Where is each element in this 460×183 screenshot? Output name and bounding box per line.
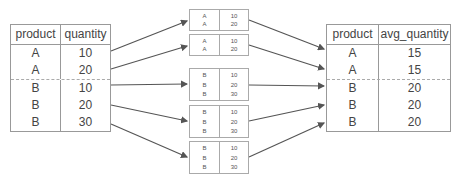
table-row: B 20: [327, 79, 450, 97]
arrow-in-3: [111, 84, 187, 85]
cell-product: A: [327, 45, 379, 62]
window-cell: B: [202, 145, 206, 151]
window-cell: 20: [231, 82, 238, 88]
cell-avg-quantity: 15: [379, 62, 450, 79]
arrow-out-1: [249, 20, 324, 49]
window-cell: 10: [231, 38, 238, 44]
window-cell: 30: [231, 164, 238, 170]
cell-product: B: [327, 114, 379, 131]
window-cell: B: [202, 72, 206, 78]
window-cell: A: [202, 13, 206, 19]
cell-product: A: [327, 62, 379, 79]
window-cell: 10: [231, 145, 238, 151]
arrow-in-2: [111, 46, 187, 69]
window-cell: B: [202, 82, 206, 88]
cell-avg-quantity: 20: [379, 97, 450, 114]
window-box-3: BBB 102030: [189, 68, 249, 101]
header-avg-quantity: avg_quantity: [379, 25, 450, 44]
arrow-in-4: [111, 105, 187, 121]
window-cell: 20: [231, 155, 238, 161]
window-cell: B: [202, 91, 206, 97]
cell-quantity: 10: [61, 45, 110, 62]
window-cell: A: [202, 46, 206, 52]
cell-quantity: 10: [61, 80, 110, 97]
cell-product: B: [11, 80, 61, 97]
table-row: B 20: [327, 97, 450, 114]
header-product: product: [327, 25, 379, 44]
cell-quantity: 30: [61, 114, 110, 131]
window-cell: B: [202, 164, 206, 170]
window-box-5: BBB 102030: [189, 141, 249, 174]
window-cell: B: [202, 119, 206, 125]
cell-product: B: [11, 114, 61, 131]
arrow-out-5: [249, 123, 324, 157]
window-cell: 30: [231, 128, 238, 134]
window-cell: 30: [231, 91, 238, 97]
cell-product: A: [11, 45, 61, 62]
table-header: product quantity: [11, 25, 110, 45]
cell-product: B: [327, 80, 379, 97]
table-row: B 20: [11, 97, 110, 114]
arrow-out-3: [249, 85, 324, 86]
cell-product: A: [11, 62, 61, 79]
window-cell: 20: [231, 21, 238, 27]
cell-quantity: 20: [61, 97, 110, 114]
table-row: A 10: [11, 45, 110, 62]
table-row: A 15: [327, 45, 450, 62]
window-cell: 10: [231, 109, 238, 115]
cell-avg-quantity: 20: [379, 80, 450, 97]
table-row: A 20: [11, 62, 110, 79]
header-quantity: quantity: [61, 25, 110, 44]
cell-avg-quantity: 15: [379, 45, 450, 62]
table-row: B 20: [327, 114, 450, 131]
window-cell: B: [202, 128, 206, 134]
window-cell: B: [202, 109, 206, 115]
window-box-4: BBB 102030: [189, 105, 249, 138]
window-cell: 20: [231, 119, 238, 125]
cell-product: B: [11, 97, 61, 114]
table-row: B 10: [11, 79, 110, 97]
cell-quantity: 20: [61, 62, 110, 79]
table-header: product avg_quantity: [327, 25, 450, 45]
window-box-1: AA 1020: [189, 9, 249, 31]
arrow-in-5: [111, 124, 187, 157]
window-cell: A: [202, 21, 206, 27]
cell-avg-quantity: 20: [379, 114, 450, 131]
cell-product: B: [327, 97, 379, 114]
window-cell: A: [202, 38, 206, 44]
table-row: B 30: [11, 114, 110, 131]
window-cell: B: [202, 155, 206, 161]
arrow-out-2: [249, 45, 324, 69]
input-table: product quantity A 10 A 20 B 10 B 20 B 3…: [10, 24, 111, 132]
window-box-2: AA 1020: [189, 34, 249, 56]
window-cell: 10: [231, 72, 238, 78]
arrow-out-4: [249, 105, 324, 121]
window-cell: 20: [231, 46, 238, 52]
arrow-in-1: [111, 21, 187, 51]
window-cell: 10: [231, 13, 238, 19]
output-table: product avg_quantity A 15 A 15 B 20 B 20…: [326, 24, 451, 132]
table-row: A 15: [327, 62, 450, 79]
header-product: product: [11, 25, 61, 44]
